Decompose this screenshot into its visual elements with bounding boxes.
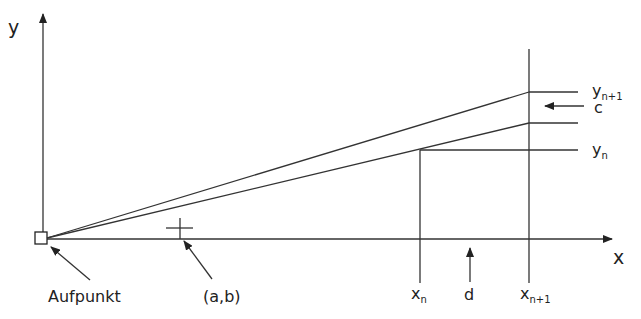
x-axis-label: x [613, 246, 624, 268]
yn-label: yn [592, 140, 608, 161]
point-pointer-arrow [184, 241, 212, 279]
ray-upper [47, 92, 529, 238]
xn-label: xn [411, 284, 427, 305]
point-label: (a,b) [203, 287, 241, 306]
origin-marker [35, 232, 47, 244]
origin-pointer-arrow [51, 247, 90, 280]
diagram: y x Aufpunkt (a,b) xn d xn+1 yn+1 c yn [0, 0, 641, 319]
xn1-label: xn+1 [520, 284, 551, 305]
origin-label: Aufpunkt [48, 287, 121, 306]
y-axis-label: y [8, 16, 19, 38]
ray-middle [47, 123, 529, 238]
c-label: c [594, 98, 603, 117]
d-label: d [464, 285, 474, 304]
